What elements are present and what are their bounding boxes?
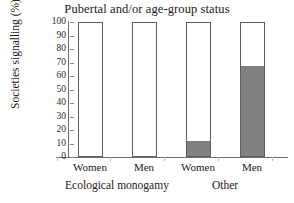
y-tick-60: 60 — [36, 76, 74, 77]
bar-other-men[interactable] — [240, 22, 265, 157]
y-tick-mark — [70, 157, 74, 158]
y-tick-mark — [70, 49, 74, 50]
y-tick-label: 70 — [57, 56, 67, 69]
bar-fill — [241, 66, 264, 156]
y-tick-label: 90 — [57, 29, 67, 42]
y-tick-70: 70 — [36, 63, 74, 64]
y-tick-50: 50 — [36, 90, 74, 91]
y-tick-mark — [70, 117, 74, 118]
plot-area: 100 90 80 70 60 50 40 30 — [68, 22, 282, 157]
x-axis-spine — [56, 157, 288, 158]
y-tick-0: 0 — [36, 157, 74, 158]
y-tick-label: 100 — [52, 15, 66, 28]
y-tick-mark — [70, 36, 74, 37]
bar-fill — [187, 141, 210, 156]
bar-monogamy-women[interactable] — [78, 22, 103, 157]
y-axis-label: Societies signalling (%) — [9, 0, 21, 129]
y-tick-30: 30 — [36, 117, 74, 118]
y-tick-label: 20 — [57, 123, 67, 136]
y-tick-100: 100 — [36, 22, 74, 23]
y-tick-20: 20 — [36, 130, 74, 131]
y-tick-80: 80 — [36, 49, 74, 50]
y-tick-mark — [70, 130, 74, 131]
y-tick-mark — [70, 63, 74, 64]
y-tick-40: 40 — [36, 103, 74, 104]
y-tick-mark — [70, 103, 74, 104]
y-tick-mark — [70, 144, 74, 145]
group-label-other: Other — [150, 179, 294, 191]
y-tick-90: 90 — [36, 36, 74, 37]
bar-monogamy-men[interactable] — [132, 22, 157, 157]
y-tick-mark — [70, 76, 74, 77]
y-tick-mark — [70, 90, 74, 91]
y-tick-label: 50 — [57, 83, 67, 96]
chart-title: Pubertal and/or age-group status — [0, 2, 294, 17]
y-tick-label: 80 — [57, 42, 67, 55]
y-tick-label: 10 — [57, 137, 67, 150]
y-tick-label: 60 — [57, 69, 67, 82]
bar-other-women[interactable] — [186, 22, 211, 157]
chart-figure: Pubertal and/or age-group status Societi… — [0, 0, 294, 203]
x-label-other-men: Men — [212, 161, 292, 173]
y-tick-label: 30 — [57, 110, 67, 123]
y-tick-label: 40 — [57, 96, 67, 109]
y-tick-mark — [70, 22, 74, 23]
y-tick-10: 10 — [36, 144, 74, 145]
